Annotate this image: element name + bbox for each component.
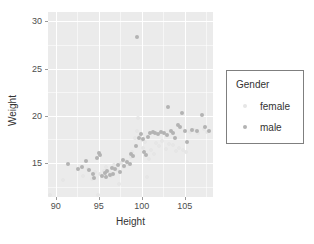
data-point — [146, 135, 150, 139]
x-axis-title: Height — [48, 216, 213, 227]
data-point — [134, 144, 138, 148]
gridline-minor-horizontal — [48, 92, 213, 93]
legend-title: Gender — [236, 79, 269, 90]
data-point — [122, 164, 126, 168]
data-point — [184, 150, 188, 154]
y-tick-mark — [45, 163, 48, 164]
y-tick-label: 30 — [32, 16, 42, 26]
data-point — [128, 162, 132, 166]
gridline-minor-horizontal — [48, 187, 213, 188]
x-tick-mark — [185, 197, 186, 200]
data-point — [180, 111, 184, 115]
data-point — [207, 129, 211, 133]
gridline-minor-vertical — [206, 12, 207, 197]
data-point — [135, 35, 139, 39]
gridline-major-horizontal — [48, 69, 213, 70]
legend: Gender femalemale — [226, 70, 304, 144]
x-tick-label: 100 — [134, 201, 149, 211]
data-point — [66, 162, 70, 166]
data-point — [185, 140, 189, 144]
data-point — [147, 157, 151, 161]
y-tick-mark — [45, 69, 48, 70]
y-tick-mark — [45, 116, 48, 117]
legend-item-male[interactable]: male — [236, 118, 300, 136]
data-point — [171, 143, 175, 147]
data-point — [136, 116, 140, 120]
data-point — [87, 168, 91, 172]
data-point — [92, 176, 96, 180]
gridline-minor-vertical — [163, 12, 164, 197]
data-point — [135, 129, 139, 133]
data-point — [131, 154, 135, 158]
x-tick-label: 90 — [51, 201, 61, 211]
data-point — [118, 170, 122, 174]
data-point — [165, 133, 169, 137]
y-tick-label: 15 — [32, 158, 42, 168]
gridline-major-vertical — [56, 12, 57, 197]
data-point — [80, 165, 84, 169]
data-point — [105, 169, 109, 173]
x-tick-label: 95 — [94, 201, 104, 211]
data-point — [48, 193, 52, 197]
x-tick-mark — [56, 197, 57, 200]
data-point — [157, 144, 161, 148]
chart-root: 909510010515202530 Height Weight Gender … — [0, 0, 314, 244]
gridline-major-vertical — [99, 12, 100, 197]
gridline-major-horizontal — [48, 116, 213, 117]
data-point — [164, 147, 168, 151]
data-point — [152, 152, 156, 156]
legend-key-female-icon — [238, 100, 251, 113]
y-tick-label: 25 — [32, 64, 42, 74]
x-tick-mark — [142, 197, 143, 200]
x-tick-label: 105 — [177, 201, 192, 211]
data-point — [116, 163, 120, 167]
plot-panel — [48, 12, 213, 197]
data-point — [171, 131, 175, 135]
y-tick-label: 20 — [32, 111, 42, 121]
data-point — [139, 132, 143, 136]
data-point — [166, 105, 170, 109]
data-point — [61, 178, 65, 182]
gridline-minor-horizontal — [48, 45, 213, 46]
data-point — [183, 129, 187, 133]
data-point — [200, 113, 204, 117]
data-point — [178, 125, 182, 129]
gridline-major-vertical — [142, 12, 143, 197]
x-tick-mark — [99, 197, 100, 200]
gridline-major-horizontal — [48, 21, 213, 22]
legend-label: female — [260, 101, 290, 112]
legend-label: male — [260, 122, 282, 133]
scatter-plot: 909510010515202530 Height Weight — [0, 0, 218, 244]
y-axis-title: Weight — [7, 81, 18, 141]
data-point — [111, 172, 115, 176]
data-point — [98, 153, 102, 157]
gridline-major-vertical — [185, 12, 186, 197]
legend-key-male-icon — [238, 121, 251, 134]
data-point — [195, 129, 199, 133]
data-point — [84, 159, 88, 163]
data-point — [81, 174, 85, 178]
data-point — [113, 167, 117, 171]
legend-item-female[interactable]: female — [236, 97, 300, 115]
data-point — [145, 175, 149, 179]
y-tick-mark — [45, 21, 48, 22]
